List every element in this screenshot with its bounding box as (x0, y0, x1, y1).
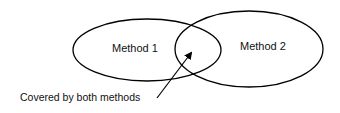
annotation-arrow (157, 53, 191, 98)
method-2-label: Method 2 (240, 40, 286, 52)
method-1-label: Method 1 (112, 42, 158, 54)
annotation-label: Covered by both methods (20, 91, 140, 103)
venn-diagram: Method 1 Method 2 Covered by both method… (0, 0, 340, 113)
